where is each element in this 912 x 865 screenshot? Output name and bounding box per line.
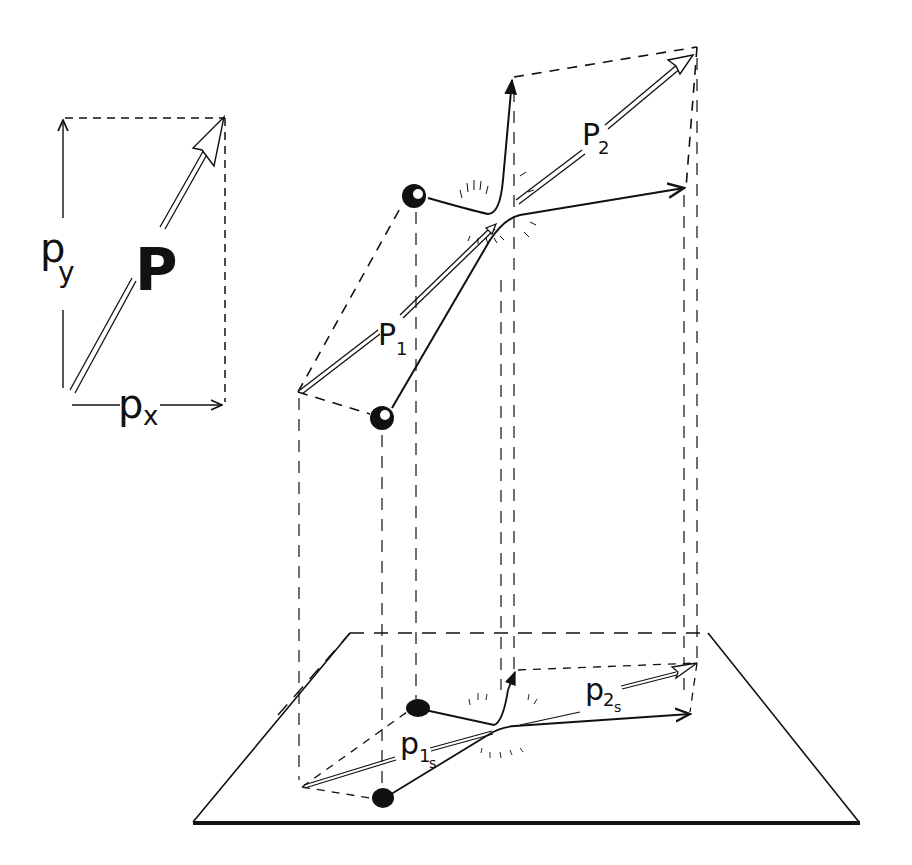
momentum-collision-diagram: P p y p x xyxy=(0,0,912,865)
vector-p1-line-d xyxy=(403,229,495,318)
p1-parallelogram-dashed-upper xyxy=(298,205,402,392)
vector-P-line-c xyxy=(160,148,205,227)
p1-parallelogram-dashed-lower xyxy=(298,392,370,414)
p2s-label: p xyxy=(585,672,604,707)
vector-P-label: P xyxy=(135,236,178,304)
vector-p2-line-c xyxy=(605,64,678,125)
vector-P-line-b xyxy=(75,281,136,393)
vector-p2-arrowhead-icon xyxy=(668,55,693,74)
vector-P-arrowhead-icon xyxy=(193,117,224,166)
proj-p2-dashed-right xyxy=(690,663,697,712)
collision-3d xyxy=(298,47,697,790)
collision-burst-icon xyxy=(460,172,536,244)
vector-P-line-a xyxy=(70,278,132,390)
p1s-label: p xyxy=(400,726,419,761)
proj-p1-dashed-lower xyxy=(302,787,382,800)
proj-particle-a xyxy=(406,699,430,717)
vector-p2-line-b xyxy=(519,154,585,204)
projection-plane xyxy=(193,633,860,823)
px-subscript: x xyxy=(143,401,158,431)
vector-p1-line-b xyxy=(302,334,380,394)
vector-p2-line-d xyxy=(608,68,681,129)
p1-subscript: 1 xyxy=(396,338,407,359)
vector-P-line-d xyxy=(165,151,209,229)
p2-subscript: 2 xyxy=(598,137,609,158)
px-label: p xyxy=(118,381,143,427)
proj-p1-dashed-upper xyxy=(302,712,407,787)
p1-label: P xyxy=(378,317,396,352)
p2s-subsubscript: s xyxy=(614,699,621,715)
particle-b-trajectory xyxy=(392,188,684,408)
vector-p1-line-a xyxy=(300,330,378,390)
vector-p2-line-a xyxy=(516,150,582,200)
p1s-subsubscript: s xyxy=(429,755,436,771)
projection-lines xyxy=(299,58,697,790)
particle-a-trajectory xyxy=(428,80,512,214)
plane-sides xyxy=(193,633,859,822)
p2-parallelogram-dashed-right xyxy=(686,47,697,188)
p2s-subscript: 2 xyxy=(603,689,614,710)
proj-p1-line-a xyxy=(304,757,395,785)
py-subscript: y xyxy=(58,256,75,289)
proj-particle-b xyxy=(372,788,394,808)
proj-p2-dashed-top xyxy=(518,663,697,670)
